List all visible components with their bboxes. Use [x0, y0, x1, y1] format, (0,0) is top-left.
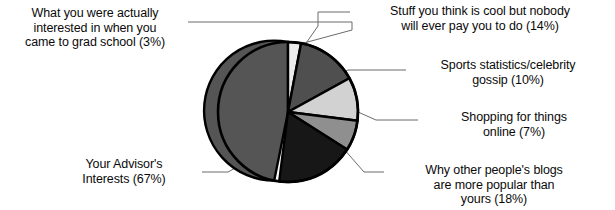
pie-label-other-blogs: Why other people's blogs are more popula…	[386, 163, 602, 207]
pie-label-grad-school-interest: What you were actually interested in whe…	[4, 6, 186, 50]
pie-label-cool-stuff: Stuff you think is cool but nobody will …	[352, 4, 608, 33]
pie-slice-advisor-interests[interactable]	[204, 41, 288, 181]
leader-line-cool-stuff	[302, 12, 350, 49]
pie-label-advisor-interests: Your Advisor's Interests (67%)	[48, 157, 200, 186]
pie-chart-figure: What you were actually interested in whe…	[0, 0, 615, 210]
pie-label-online-shopping: Shopping for things online (7%)	[420, 110, 608, 139]
pie-label-sports-gossip: Sports statistics/celebrity gossip (10%)	[408, 58, 608, 87]
